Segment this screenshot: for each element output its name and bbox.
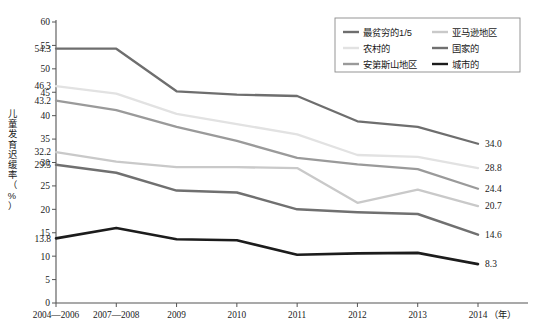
y-tick-label: 40: [41, 111, 51, 121]
series-start-label-0: 54.3: [34, 44, 51, 54]
series-end-label-3: 20.7: [485, 201, 502, 211]
y-tick-label: 25: [41, 181, 51, 191]
series-end-label-4: 14.6: [485, 230, 502, 240]
y-axis-title-char: 迟: [8, 150, 17, 160]
legend-label-5: 城市的: [452, 59, 479, 70]
x-tick-label: 2011: [288, 310, 307, 320]
series-end-label-2: 24.4: [485, 184, 502, 194]
line-chart-svg: 051015202530354045505560 2004—20062007—2…: [0, 0, 538, 335]
series-end-label-0: 34.0: [485, 139, 502, 149]
series-lines: [56, 49, 478, 264]
y-axis-title-char: 儿: [8, 109, 17, 119]
series-start-label-2: 43.2: [34, 96, 51, 106]
y-axis-title-char: 率: [8, 169, 17, 180]
x-axis-tick-marks: [56, 303, 478, 307]
chart-legend: 最贫穷的1/5亚马逊地区农村的国家的安第斯山地区城市的: [335, 18, 520, 72]
legend-label-3: 国家的: [452, 43, 479, 54]
series-start-label-4: 29.5: [34, 160, 51, 170]
x-tick-label: 2012: [348, 310, 367, 320]
series-start-label-1: 46.3: [34, 81, 51, 91]
series-line-5: [56, 228, 478, 264]
y-tick-label: 35: [41, 134, 51, 144]
legend-label-1: 亚马逊地区: [452, 27, 497, 38]
y-axis-tick-marks: [52, 22, 56, 303]
y-axis-title-char: 发: [8, 128, 17, 139]
y-tick-label: 5: [45, 275, 50, 285]
x-tick-label: 2013: [408, 310, 427, 320]
y-axis-title-char: 育: [8, 139, 17, 150]
x-tick-label: 2009: [167, 310, 186, 320]
y-axis-title-char: （: [8, 180, 17, 190]
y-axis-title-char: %: [8, 191, 16, 201]
y-axis-title: 儿童发育迟缓率（%）: [8, 109, 18, 211]
series-start-label-3: 32.2: [34, 147, 51, 157]
y-tick-label: 60: [41, 17, 51, 27]
y-tick-label: 20: [41, 205, 51, 215]
legend-label-2: 农村的: [363, 43, 390, 54]
legend-label-0: 最贫穷的1/5: [363, 27, 412, 38]
y-axis-title-char: ）: [8, 201, 17, 211]
y-tick-label: 50: [41, 64, 51, 74]
series-line-2: [56, 101, 478, 189]
chart-container: 051015202530354045505560 2004—20062007—2…: [0, 0, 538, 335]
x-axis-unit-text: （年）: [489, 309, 516, 320]
series-line-3: [56, 152, 478, 206]
series-start-label-5: 13.8: [34, 234, 51, 244]
y-tick-label: 0: [45, 298, 50, 308]
series-end-label-1: 28.8: [485, 163, 502, 173]
legend-label-4: 安第斯山地区: [363, 59, 417, 70]
series-end-label-5: 8.3: [485, 259, 497, 269]
x-tick-label: 2014: [469, 310, 488, 320]
x-tick-label: 2010: [228, 310, 247, 320]
x-tick-label: 2007—2008: [93, 310, 140, 320]
x-axis-tick-labels: 2004—20062007—20082009201020112012201320…: [33, 310, 488, 320]
x-axis-unit-label: （年）: [489, 309, 516, 320]
series-end-value-labels: 34.028.824.420.714.68.3: [485, 139, 502, 269]
x-tick-label: 2004—2006: [33, 310, 80, 320]
y-axis-title-char: 缓: [8, 159, 18, 170]
y-tick-label: 10: [41, 252, 51, 262]
series-line-4: [56, 165, 478, 235]
y-axis-title-char: 童: [8, 118, 17, 129]
